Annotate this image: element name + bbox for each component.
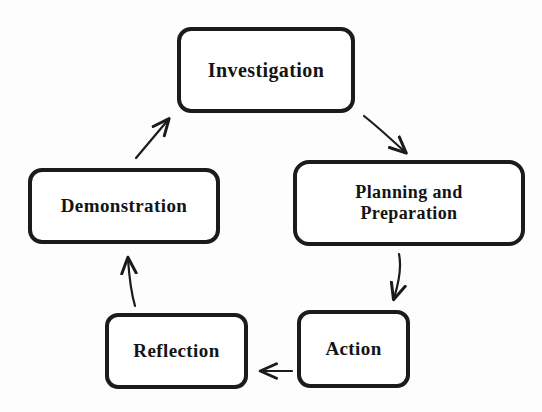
- node-demonstration-label: Demonstration: [55, 195, 194, 217]
- node-action-label: Action: [319, 338, 387, 360]
- node-investigation-label: Investigation: [202, 59, 330, 82]
- node-planning-and-preparation-label: Planning and Preparation: [349, 182, 468, 223]
- node-planning-and-preparation[interactable]: Planning and Preparation: [293, 160, 525, 246]
- edge-demonstration-to-investigation: [136, 120, 168, 158]
- node-demonstration[interactable]: Demonstration: [28, 168, 220, 244]
- edge-planning-to-action: [394, 254, 400, 298]
- node-reflection[interactable]: Reflection: [105, 313, 248, 389]
- diagram-canvas: Investigation Planning and Preparation A…: [0, 0, 542, 412]
- edge-reflection-to-demonstration: [128, 259, 135, 306]
- node-reflection-label: Reflection: [127, 340, 225, 362]
- edge-investigation-to-planning: [364, 116, 405, 152]
- node-investigation[interactable]: Investigation: [177, 27, 355, 113]
- node-action[interactable]: Action: [297, 310, 410, 388]
